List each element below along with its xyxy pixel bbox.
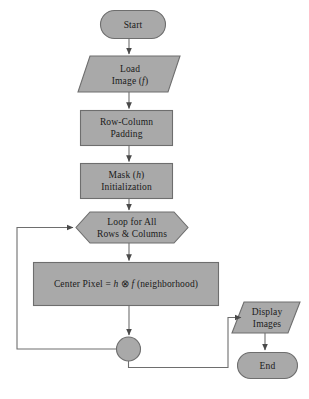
node-display-images-shape [232,302,300,333]
node-load-shape [78,56,180,92]
flowchart-graphics [0,0,309,399]
node-end-shape [238,353,298,379]
node-start-shape [101,11,166,39]
node-row-column-padding-shape [81,111,173,146]
node-loop-shape [76,212,188,243]
edge-junction-exit-to-display [129,318,242,368]
node-center-pixel-shape [34,263,219,306]
node-mask-initialization-shape [81,164,173,199]
flowchart-canvas: Start Load Image (f) Row-Column Padding … [0,0,309,399]
node-junction-connector [117,337,141,361]
